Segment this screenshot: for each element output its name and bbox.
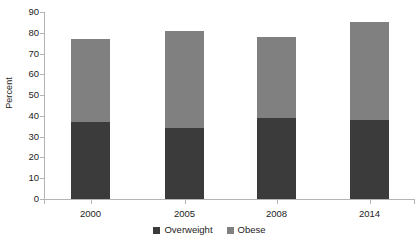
y-tick-mark <box>40 33 45 34</box>
x-axis-end-tick <box>414 199 415 204</box>
x-tick-mark <box>185 199 186 204</box>
y-tick-mark <box>40 12 45 13</box>
y-axis-line <box>44 12 45 199</box>
y-tick-label: 0 <box>34 192 39 205</box>
y-tick-label: 70 <box>28 47 39 60</box>
x-tick-mark <box>277 199 278 204</box>
y-tick-mark <box>40 137 45 138</box>
x-tick-mark <box>370 199 371 204</box>
legend-label: Obese <box>238 224 266 236</box>
bar-segment-overweight[interactable] <box>257 118 296 199</box>
bar-group[interactable] <box>165 31 204 199</box>
y-tick-mark <box>40 178 45 179</box>
bar-group[interactable] <box>350 22 389 199</box>
y-tick-mark <box>40 95 45 96</box>
y-tick-label: 80 <box>28 26 39 39</box>
legend-swatch-icon <box>153 227 160 234</box>
stacked-bar-chart: Percent 0102030405060708090 200020052008… <box>0 0 419 243</box>
legend-label: Overweight <box>164 224 212 236</box>
y-tick-mark <box>40 157 45 158</box>
x-tick-label: 2005 <box>160 208 210 219</box>
bar-group[interactable] <box>71 39 110 199</box>
y-tick-label: 50 <box>28 88 39 101</box>
x-tick-mark <box>91 199 92 204</box>
x-axis-line <box>44 199 415 200</box>
x-tick-label: 2014 <box>345 208 395 219</box>
bar-segment-overweight[interactable] <box>71 122 110 199</box>
y-tick-label: 20 <box>28 150 39 163</box>
y-tick-mark <box>40 116 45 117</box>
bar-segment-obese[interactable] <box>257 37 296 118</box>
x-tick-label: 2000 <box>66 208 116 219</box>
y-tick-mark <box>40 54 45 55</box>
bar-segment-overweight[interactable] <box>350 120 389 199</box>
chart-legend: OverweightObese <box>0 224 419 236</box>
y-tick-label: 40 <box>28 109 39 122</box>
y-tick-mark <box>40 74 45 75</box>
bar-segment-obese[interactable] <box>350 22 389 120</box>
y-tick-label: 90 <box>28 5 39 18</box>
legend-item-obese[interactable]: Obese <box>227 224 266 236</box>
bar-segment-obese[interactable] <box>71 39 110 122</box>
y-axis-title: Percent <box>4 63 14 123</box>
y-tick-label: 10 <box>28 171 39 184</box>
x-axis-origin-tick <box>44 199 45 204</box>
x-tick-label: 2008 <box>252 208 302 219</box>
bar-group[interactable] <box>257 37 296 199</box>
legend-item-overweight[interactable]: Overweight <box>153 224 212 236</box>
y-tick-label: 30 <box>28 130 39 143</box>
y-tick-label: 60 <box>28 67 39 80</box>
plot-area: 0102030405060708090 2000200520082014 <box>44 12 415 199</box>
legend-swatch-icon <box>227 227 234 234</box>
bar-segment-overweight[interactable] <box>165 128 204 199</box>
bar-segment-obese[interactable] <box>165 31 204 129</box>
